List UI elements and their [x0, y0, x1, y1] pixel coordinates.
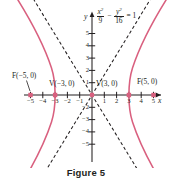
y-tick-label: −2: [77, 104, 89, 111]
vertex-left-label: V(−3, 0): [49, 80, 75, 87]
x-tick-label: 3: [124, 98, 134, 105]
equation-x-fraction: x2 9: [97, 7, 105, 25]
y-tick-label: 1: [80, 79, 89, 86]
equation-equals-one: = 1: [126, 11, 137, 20]
equation-y-fraction: y2 16: [114, 7, 123, 25]
focus-left-label: F(−5, 0): [12, 72, 36, 79]
x-tick-label: 2: [112, 98, 122, 105]
y-axis: [90, 12, 95, 163]
x-tick-label: 5: [149, 98, 159, 105]
x-tick-label: −3: [49, 98, 61, 105]
y-tick-label: −3: [77, 116, 89, 123]
y-tick-label: −5: [77, 141, 89, 148]
y-tick-label: 2: [80, 67, 89, 74]
x-tick-label: −2: [61, 98, 73, 105]
origin-marker: [90, 93, 95, 98]
figure-hyperbola: x2 9 − y2 16 = 1 y x F(−5, 0) V(−3, 0) V…: [0, 0, 172, 185]
y-axis-arrow: [90, 12, 95, 18]
x-tick-label: −4: [37, 98, 49, 105]
y-tick-label: −4: [77, 128, 89, 135]
plot-area: x2 9 − y2 16 = 1 y x F(−5, 0) V(−3, 0) V…: [0, 0, 172, 168]
y-tick-label: 4: [80, 42, 89, 49]
equation-label: x2 9 − y2 16 = 1: [96, 7, 137, 25]
x-tick-label: 4: [136, 98, 146, 105]
y-tick-label: 3: [80, 55, 89, 62]
focus-left-leader-line: [27, 81, 31, 92]
equation-minus-sign: −: [107, 11, 112, 20]
x-axis-label: x: [158, 97, 161, 105]
y-tick-label: 5: [80, 30, 89, 37]
x-tick-label: 1: [99, 98, 109, 105]
y-axis-label: y: [84, 13, 87, 21]
figure-caption: Figure 5: [0, 167, 172, 178]
focus-right-label: F(5, 0): [137, 78, 157, 85]
x-tick-label: −5: [25, 98, 37, 105]
vertex-right-label: V(3, 0): [96, 80, 117, 87]
